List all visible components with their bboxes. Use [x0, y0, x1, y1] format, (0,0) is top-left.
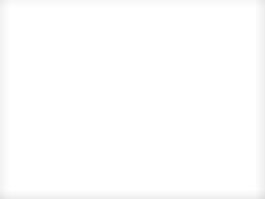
cycle-node-pose-a-question: Pose a question [91, 41, 167, 66]
arrow-down-icon [211, 79, 241, 139]
slide-canvas: Pose a question Collect data Analyse the… [13, 13, 251, 182]
cycle-node-refine-question-if-necessary: Refine question if necessary [15, 85, 111, 110]
cycle-node-analyse-the-data: Analyse the data [181, 131, 247, 156]
slide-frame: Pose a question Collect data Analyse the… [0, 0, 265, 199]
cycle-node-interpret-the-results: Interpret the results [93, 125, 165, 163]
cycle-node-collect-data: Collect data [181, 43, 247, 68]
